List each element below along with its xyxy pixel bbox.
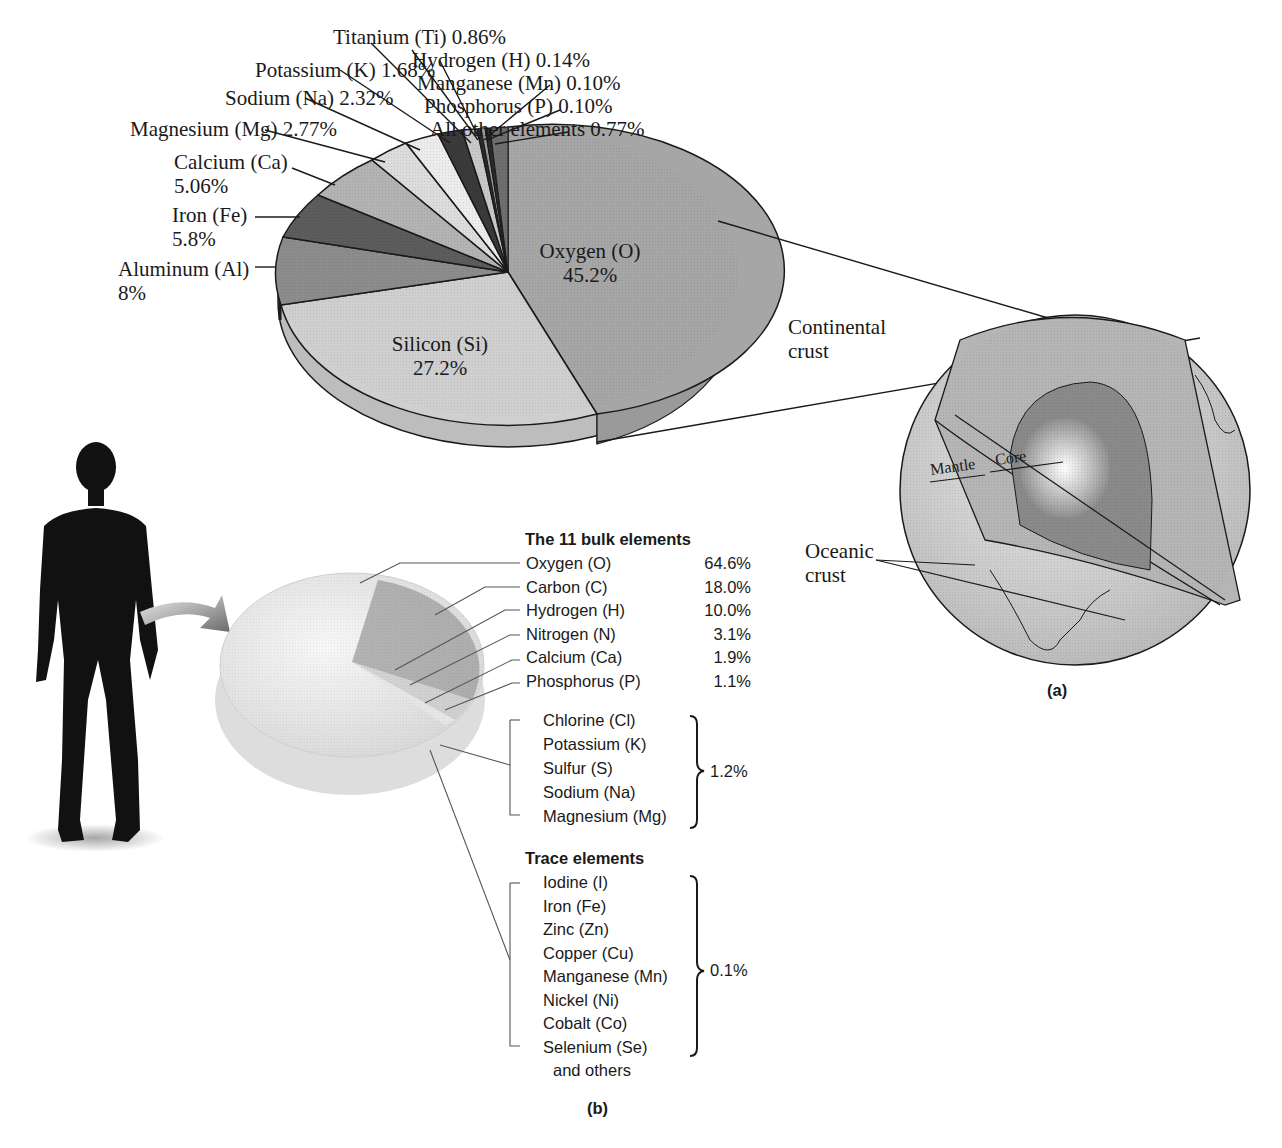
group-item: Sulfur (S) xyxy=(543,758,667,782)
label-magnesium: Magnesium (Mg) 2.77% xyxy=(130,118,337,141)
bulk-name: Oxygen (O) xyxy=(526,553,611,577)
bulk-row: Oxygen (O)64.6% xyxy=(526,553,751,577)
trace-item: Nickel (Ni) xyxy=(543,990,668,1014)
label-other: All other elements 0.77% xyxy=(430,118,645,141)
trace-item: Selenium (Se) xyxy=(543,1037,668,1061)
trace-item: Cobalt (Co) xyxy=(543,1013,668,1037)
label-calcium-name: Calcium (Ca) xyxy=(174,151,288,174)
label-aluminum-name: Aluminum (Al) xyxy=(118,258,249,281)
bulk-name: Phosphorus (P) xyxy=(526,671,641,695)
bulk-row: Calcium (Ca)1.9% xyxy=(526,647,751,671)
label-oceanic-crust-1: Oceanic xyxy=(805,540,874,563)
bulk-row: Carbon (C)18.0% xyxy=(526,577,751,601)
label-sodium: Sodium (Na) 2.32% xyxy=(225,87,394,110)
bulk-value: 1.9% xyxy=(713,647,751,671)
label-core: Core xyxy=(994,444,1028,471)
bulk-row: Hydrogen (H)10.0% xyxy=(526,600,751,624)
group-list: Chlorine (Cl) Potassium (K) Sulfur (S) S… xyxy=(543,710,667,830)
panel-label-a: (a) xyxy=(1047,680,1067,701)
label-oceanic-crust-2: crust xyxy=(805,564,846,587)
group-item: Potassium (K) xyxy=(543,734,667,758)
earth-cutaway-globe xyxy=(876,315,1250,665)
trace-item: Manganese (Mn) xyxy=(543,966,668,990)
group-item: Magnesium (Mg) xyxy=(543,806,667,830)
trace-item: Zinc (Zn) xyxy=(543,919,668,943)
bulk-name: Hydrogen (H) xyxy=(526,600,625,624)
label-potassium: Potassium (K) 1.68% xyxy=(255,59,435,82)
bulk-row: Nitrogen (N)3.1% xyxy=(526,624,751,648)
label-silicon-name: Silicon (Si) xyxy=(355,333,525,356)
label-aluminum-value: 8% xyxy=(118,282,146,305)
bulk-row: Phosphorus (P)1.1% xyxy=(526,671,751,695)
human-silhouette-icon xyxy=(25,442,165,852)
trace-item-extra: and others xyxy=(543,1060,668,1084)
bulk-heading: The 11 bulk elements xyxy=(525,529,691,550)
bulk-name: Carbon (C) xyxy=(526,577,608,601)
trace-value: 0.1% xyxy=(710,960,748,981)
bulk-value: 3.1% xyxy=(713,624,751,648)
trace-item: Iodine (I) xyxy=(543,872,668,896)
trace-heading: Trace elements xyxy=(525,848,644,869)
body-pie-chart xyxy=(215,573,485,795)
group-item: Chlorine (Cl) xyxy=(543,710,667,734)
bulk-value: 18.0% xyxy=(704,577,751,601)
trace-item: Copper (Cu) xyxy=(543,943,668,967)
label-oxygen-value: 45.2% xyxy=(505,264,675,287)
label-phosphorus: Phosphorus (P) 0.10% xyxy=(424,95,612,118)
label-silicon-value: 27.2% xyxy=(355,357,525,380)
label-titanium: Titanium (Ti) 0.86% xyxy=(333,26,506,49)
label-continental-crust-2: crust xyxy=(788,340,829,363)
label-continental-crust-1: Continental xyxy=(788,316,886,339)
bulk-value: 10.0% xyxy=(704,600,751,624)
label-manganese: Manganese (Mn) 0.10% xyxy=(417,72,621,95)
label-iron-value: 5.8% xyxy=(172,228,216,251)
label-calcium-value: 5.06% xyxy=(174,175,228,198)
bulk-list: Oxygen (O)64.6% Carbon (C)18.0% Hydrogen… xyxy=(526,553,751,694)
label-oxygen-name: Oxygen (O) xyxy=(505,240,675,263)
bulk-value: 64.6% xyxy=(704,553,751,577)
bulk-value: 1.1% xyxy=(713,671,751,695)
label-iron-name: Iron (Fe) xyxy=(172,204,247,227)
group-value: 1.2% xyxy=(710,761,748,782)
braces xyxy=(690,716,704,1056)
label-hydrogen: Hydrogen (H) 0.14% xyxy=(412,49,590,72)
trace-list: Iodine (I) Iron (Fe) Zinc (Zn) Copper (C… xyxy=(543,872,668,1084)
bulk-name: Calcium (Ca) xyxy=(526,647,622,671)
bulk-name: Nitrogen (N) xyxy=(526,624,616,648)
trace-item: Iron (Fe) xyxy=(543,896,668,920)
panel-label-b: (b) xyxy=(587,1098,608,1119)
group-item: Sodium (Na) xyxy=(543,782,667,806)
